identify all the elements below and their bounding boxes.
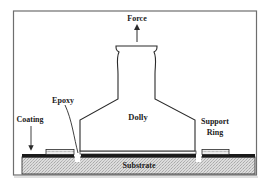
adhesion-test-diagram: Force Epoxy Coating Dolly Support Ring S… [0,0,271,187]
force-label: Force [127,14,147,23]
epoxy-label: Epoxy [52,96,74,105]
score-cut-left [75,152,80,162]
dolly-label: Dolly [128,112,148,122]
dolly-shape [80,46,195,151]
epoxy-leader-line [65,105,78,153]
coating-layer-center [81,154,196,158]
substrate-label: Substrate [123,161,156,170]
support-ring-left [46,150,74,155]
support-ring-label-line1: Support [201,117,229,126]
support-ring-right [202,150,229,155]
coating-label: Coating [16,115,43,124]
score-cut-right [196,152,201,162]
support-ring-label-line2: Ring [207,128,223,137]
